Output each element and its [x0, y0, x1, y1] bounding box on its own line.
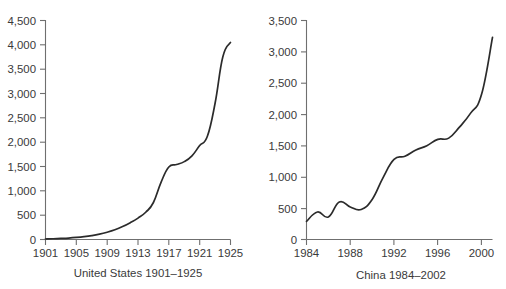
x-tick-label: 1913	[125, 247, 150, 259]
chart-svg-china: 3,500 3,000 2,500 2,000 1,500 1,000 500 …	[253, 0, 506, 289]
y-tick-label: 2,000	[7, 136, 36, 148]
y-axis-ticks	[40, 21, 46, 240]
two-panel-line-chart-figure: 4,500 4,000 3,500 3,000 2,500 2,000 1,50…	[0, 0, 506, 289]
y-tick-label: 1,500	[7, 161, 36, 173]
x-tick-label: 1905	[64, 247, 89, 259]
y-tick-label: 1,500	[268, 140, 297, 152]
chart-svg-united-states: 4,500 4,000 3,500 3,000 2,500 2,000 1,50…	[0, 0, 253, 289]
y-tick-label: 3,000	[7, 88, 36, 100]
y-axis-ticks	[301, 21, 307, 240]
x-tick-label: 1925	[218, 247, 243, 259]
x-tick-label: 1996	[425, 247, 450, 259]
x-axis-tick-labels: 1901 1905 1909 1913 1917 1921 1925	[33, 247, 243, 259]
data-series-line-china	[307, 37, 493, 221]
y-tick-label: 1,000	[268, 171, 297, 183]
y-tick-label: 2,500	[268, 77, 297, 89]
x-tick-label: 1921	[187, 247, 212, 259]
x-axis-china: 1984 1988 1992 1996 2000	[294, 240, 494, 260]
y-tick-label: 4,500	[7, 15, 36, 27]
y-axis-tick-labels: 4,500 4,000 3,500 3,000 2,500 2,000 1,50…	[7, 15, 36, 246]
x-axis-ticks	[46, 240, 231, 246]
y-tick-label: 0	[30, 234, 36, 246]
chart-caption-united-states: United States 1901–1925	[74, 267, 203, 279]
y-tick-label: 500	[17, 209, 36, 221]
x-axis-tick-labels: 1984 1988 1992 1996 2000	[294, 247, 494, 259]
y-axis-tick-labels: 3,500 3,000 2,500 2,000 1,500 1,000 500 …	[268, 15, 297, 246]
x-tick-label: 2000	[469, 247, 494, 259]
chart-panel-united-states: 4,500 4,000 3,500 3,000 2,500 2,000 1,50…	[0, 0, 253, 289]
x-tick-label: 1917	[156, 247, 181, 259]
y-axis-china: 3,500 3,000 2,500 2,000 1,500 1,000 500 …	[268, 15, 306, 246]
y-tick-label: 3,500	[7, 63, 36, 75]
y-tick-label: 3,500	[268, 15, 297, 27]
y-tick-label: 1,000	[7, 185, 36, 197]
x-tick-label: 1988	[338, 247, 363, 259]
y-tick-label: 500	[278, 203, 297, 215]
y-axis-united-states: 4,500 4,000 3,500 3,000 2,500 2,000 1,50…	[7, 15, 45, 246]
y-tick-label: 2,500	[7, 112, 36, 124]
y-tick-label: 4,000	[7, 39, 36, 51]
chart-caption-china: China 1984–2002	[356, 269, 446, 281]
x-axis-ticks	[307, 240, 482, 246]
x-tick-label: 1984	[294, 247, 319, 259]
y-tick-label: 0	[291, 234, 297, 246]
x-tick-label: 1909	[95, 247, 120, 259]
x-tick-label: 1901	[33, 247, 58, 259]
y-tick-label: 3,000	[268, 46, 297, 58]
x-axis-united-states: 1901 1905 1909 1913 1917 1921 1925	[33, 240, 243, 260]
chart-panel-china: 3,500 3,000 2,500 2,000 1,500 1,000 500 …	[253, 0, 506, 289]
x-tick-label: 1992	[381, 247, 406, 259]
y-tick-label: 2,000	[268, 109, 297, 121]
data-series-line-united-states	[46, 42, 231, 239]
